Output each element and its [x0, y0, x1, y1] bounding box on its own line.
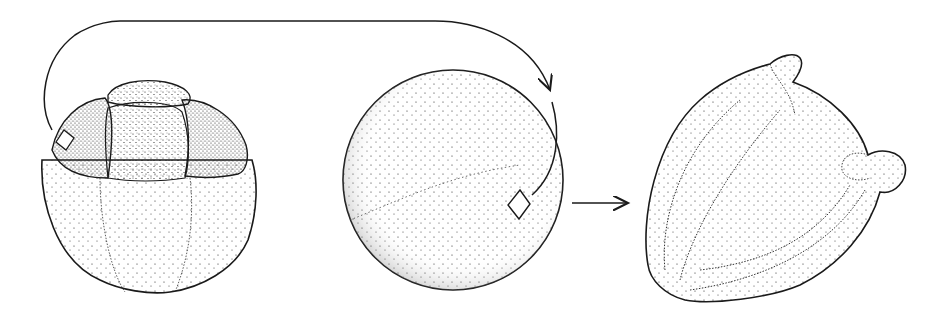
cluster-upper-right-cell	[182, 100, 247, 177]
sphere-stage	[343, 70, 563, 290]
sphere-shading	[343, 70, 563, 290]
illustration-canvas	[0, 0, 945, 321]
cluster-stage	[42, 81, 256, 293]
grain-stage	[646, 55, 905, 302]
cluster-top-cell	[108, 81, 190, 107]
cluster-upper-center-cell	[105, 102, 188, 181]
